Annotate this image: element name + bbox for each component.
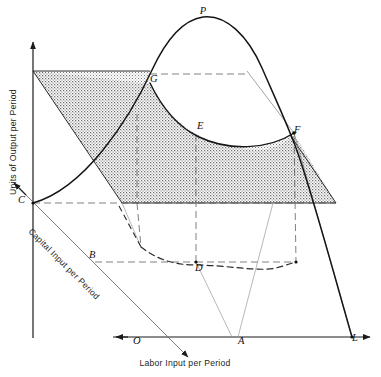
- base-projection-leadin: [119, 206, 141, 247]
- base-projection-curve: [141, 247, 296, 269]
- ray-plane-to-A: [238, 203, 273, 337]
- point-marker-C: [31, 201, 34, 204]
- point-label-O: O: [133, 335, 141, 346]
- point-label-C: C: [18, 194, 26, 205]
- point-label-D: D: [194, 262, 203, 273]
- labor-axis-label: Labor Input per Period: [139, 358, 230, 368]
- point-marker-right-foot: [294, 260, 297, 263]
- dash-G-vertical-lower: [137, 203, 141, 247]
- point-label-P: P: [199, 5, 207, 16]
- point-label-L: L: [351, 332, 358, 343]
- point-label-B: B: [89, 249, 96, 260]
- point-label-E: E: [196, 120, 204, 131]
- capital-axis-line: [26, 195, 188, 357]
- production-surface-diagram: P G E F C B D O A L Units of Output per …: [0, 0, 381, 377]
- capital-axis-label: Capital Input per Period: [27, 226, 102, 301]
- output-axis-label: Units of Output per Period: [8, 89, 18, 195]
- ray-planeleft-down: [122, 203, 141, 247]
- point-label-A: A: [237, 335, 245, 346]
- ray-D-to-A: [196, 262, 232, 337]
- figure-canvas: P G E F C B D O A L Units of Output per …: [0, 0, 381, 377]
- point-label-F: F: [293, 124, 301, 135]
- point-label-G: G: [150, 73, 158, 84]
